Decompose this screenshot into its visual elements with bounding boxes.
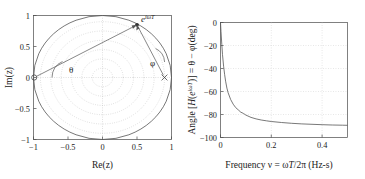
phase-ytick-0: 0	[213, 19, 217, 28]
phase-ytick-5: −100	[200, 134, 217, 143]
z-plane-x-axis-label: Re(z)	[92, 160, 113, 171]
z-plane-y-axis-label: Im(z)	[4, 67, 15, 88]
phase-plot-svg: 0 0.2 0.4 0 −20 −40 −60 −80 −100 Freque	[183, 0, 365, 179]
z-xtick-3: 0.5	[132, 143, 142, 152]
z-ytick-0: 1	[26, 12, 30, 21]
z-plane-panel: θ φ eiωT −1 −0.5 0 0.5 1	[0, 0, 183, 179]
phase-xtick-0: 0	[218, 141, 222, 150]
phase-ytick-2: −40	[204, 65, 217, 74]
z-ytick-3: −0.5	[15, 105, 30, 114]
z-plane-svg: θ φ eiωT −1 −0.5 0 0.5 1	[0, 0, 183, 179]
z-xtick-1: −0.5	[60, 143, 75, 152]
phase-xtick-2: 0.4	[317, 141, 328, 150]
phase-ytick-1: −20	[204, 42, 217, 51]
evaluation-point-label: eiωT	[141, 13, 155, 24]
phase-ytick-3: −60	[204, 88, 217, 97]
phase-gridlines	[221, 23, 348, 138]
phase-frame	[221, 23, 348, 138]
z-ytick-2: 0	[26, 74, 30, 83]
phase-plot-panel: 0 0.2 0.4 0 −20 −40 −60 −80 −100 Freque	[183, 0, 365, 179]
z-xtick-2: 0	[100, 143, 104, 152]
phi-angle-arc	[156, 49, 165, 63]
theta-vector	[37, 25, 137, 77]
phase-x-axis-label: Frequency ν = ωT/2π (Hz-s)	[225, 160, 332, 171]
z-ytick-4: −1	[21, 136, 30, 145]
z-ytick-1: 0.5	[20, 43, 30, 52]
phase-y-ticks: 0 −20 −40 −60 −80 −100	[200, 19, 224, 143]
z-plane-x-ticks: −1 −0.5 0 0.5 1	[29, 137, 173, 153]
figure-root: θ φ eiωT −1 −0.5 0 0.5 1	[0, 0, 365, 179]
theta-label: θ	[69, 65, 73, 75]
polar-grid	[34, 16, 172, 140]
phase-ytick-4: −80	[204, 111, 217, 120]
phase-y-axis-label: Angle [H(eiωT)] = θ − φ(deg)	[186, 25, 198, 134]
phi-label: φ	[150, 58, 155, 68]
z-xtick-0: −1	[29, 143, 38, 152]
phase-curve	[221, 23, 348, 126]
z-xtick-4: 1	[169, 143, 173, 152]
phase-x-ticks: 0 0.2 0.4	[218, 135, 328, 151]
phase-xtick-1: 0.2	[266, 141, 276, 150]
